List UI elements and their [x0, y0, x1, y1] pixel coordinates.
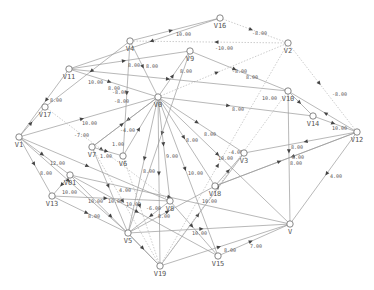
node-V2[interactable]: V2	[284, 40, 292, 55]
node-V10[interactable]: V10	[282, 88, 295, 103]
arrow-icon	[331, 121, 336, 125]
arrow-icon	[150, 39, 155, 43]
node-circle-icon[interactable]	[287, 221, 293, 227]
arrow-icon	[226, 103, 230, 107]
node-V0[interactable]: V0	[154, 94, 162, 109]
edge-weight-label: 10.00	[62, 189, 77, 195]
node-circle-icon[interactable]	[157, 263, 163, 269]
arrow-icon	[304, 139, 308, 143]
edge-weight-label: 10.00	[218, 155, 233, 161]
node-V[interactable]: V	[287, 221, 293, 236]
edge-weight-label: 8.00	[224, 247, 236, 253]
edge-weight-label: 8.00	[146, 63, 158, 69]
edge-weight-label: 10.00	[108, 198, 123, 204]
node-V13[interactable]: V13	[46, 193, 59, 208]
node-V12[interactable]: V12	[351, 129, 364, 144]
edge-weight-label: 10.00	[188, 170, 203, 176]
edge-weight-label: 9.00	[166, 153, 178, 159]
node-label: V12	[351, 136, 364, 144]
node-circle-icon[interactable]	[120, 153, 126, 159]
edge-weight-label: -4.00	[120, 127, 135, 133]
arrow-icon	[149, 213, 153, 217]
edge-weight-label: 10.00	[262, 95, 277, 101]
node-circle-icon[interactable]	[49, 193, 55, 199]
node-circle-icon[interactable]	[187, 48, 193, 54]
edge-weight-label: 8.00	[50, 97, 62, 103]
nodes-layer: V16V2V4V9V11V17V0V10V14V12V1V7V6V3V01V13…	[15, 15, 364, 278]
node-V3[interactable]: V3	[240, 150, 248, 165]
edge-weight-label: 8.00	[180, 68, 192, 74]
edge-V2-V12	[288, 43, 357, 132]
edge-weight-label: 10.00	[332, 125, 347, 131]
node-circle-icon[interactable]	[285, 40, 291, 46]
node-V4[interactable]: V4	[126, 38, 134, 53]
node-V8[interactable]: V8	[166, 198, 174, 213]
edge-weight-label: -10.00	[215, 45, 233, 51]
node-circle-icon[interactable]	[89, 144, 95, 150]
node-circle-icon[interactable]	[285, 88, 291, 94]
edge-weight-label: 4.00	[119, 187, 131, 193]
edge-weight-label: -8.00	[114, 98, 129, 104]
edge-weight-label: 10.00	[176, 31, 191, 37]
node-circle-icon[interactable]	[67, 172, 73, 178]
node-circle-icon[interactable]	[155, 94, 161, 100]
edge-weight-label: -8.00	[332, 91, 347, 97]
node-V1[interactable]: V1	[15, 134, 23, 149]
arrow-icon	[40, 152, 45, 156]
node-circle-icon[interactable]	[66, 66, 72, 72]
node-circle-icon[interactable]	[127, 38, 133, 44]
arrow-icon	[170, 74, 174, 79]
edge-weight-label: 8.00	[290, 160, 302, 166]
node-label: V1	[15, 141, 23, 149]
node-label: V14	[307, 120, 320, 128]
arrow-icon	[45, 97, 49, 102]
node-V17[interactable]: V17	[39, 104, 52, 119]
node-label: V01	[64, 179, 77, 187]
node-circle-icon[interactable]	[42, 104, 48, 110]
edge-weight-label: 1.00	[112, 141, 124, 147]
node-circle-icon[interactable]	[212, 183, 218, 189]
node-V15[interactable]: V15	[212, 253, 225, 268]
arrow-icon	[143, 156, 147, 160]
edge-V4-V16	[130, 18, 220, 41]
edge-weight-label: 8.00	[232, 106, 244, 112]
arrow-icon	[181, 135, 185, 140]
edge-V1-V13	[19, 137, 52, 196]
edge-weight-label: 10.00	[202, 198, 217, 204]
node-label: V6	[119, 160, 127, 168]
edge-V0-V5	[128, 97, 158, 233]
directed-graph: 10.00-8.00-10.008.008.008.008.00-8.0010.…	[0, 0, 374, 290]
arrow-icon	[157, 171, 161, 175]
node-circle-icon[interactable]	[215, 253, 221, 259]
arrow-icon	[214, 40, 218, 44]
edge-weight-label: 8.00	[204, 131, 216, 137]
edge-weight-label: 12.00	[50, 160, 65, 166]
edge-weight-label: 8.00	[128, 62, 140, 68]
node-circle-icon[interactable]	[167, 198, 173, 204]
edge-weight-label: 10.00	[88, 79, 103, 85]
arrow-icon	[216, 246, 221, 250]
edge-weight-label: -6.00	[146, 205, 161, 211]
node-V5[interactable]: V5	[124, 230, 132, 245]
node-circle-icon[interactable]	[16, 134, 22, 140]
node-V19[interactable]: V19	[154, 263, 167, 278]
edge-weight-label: 4.00	[330, 173, 342, 179]
node-circle-icon[interactable]	[241, 150, 247, 156]
node-circle-icon[interactable]	[354, 129, 360, 135]
node-label: V17	[39, 111, 52, 119]
node-label: V5	[124, 237, 132, 245]
node-V9[interactable]: V9	[186, 48, 194, 63]
node-V6[interactable]: V6	[119, 153, 127, 168]
node-V7[interactable]: V7	[88, 144, 96, 159]
node-label: V15	[212, 260, 225, 268]
node-label: V11	[63, 73, 76, 81]
node-V01[interactable]: V01	[64, 172, 77, 187]
node-label: V10	[282, 95, 295, 103]
node-V16[interactable]: V16	[214, 15, 227, 30]
edge-weight-label: 8.00	[88, 213, 100, 219]
node-label: V9	[186, 55, 194, 63]
node-circle-icon[interactable]	[217, 15, 223, 21]
node-V14[interactable]: V14	[307, 113, 320, 128]
node-circle-icon[interactable]	[125, 230, 131, 236]
node-circle-icon[interactable]	[310, 113, 316, 119]
